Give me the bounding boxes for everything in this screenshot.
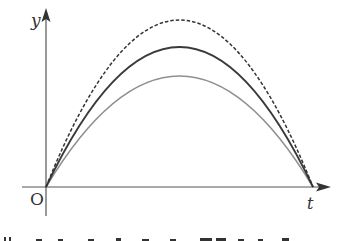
origin-label: O [30,189,44,209]
cut-off-caption [0,229,353,241]
dark-solid-curve [46,47,313,187]
y-axis-label: y [31,10,41,30]
parabola-diagram: y O t [0,0,353,241]
diagram-canvas [0,0,353,241]
t-axis-label: t [307,194,313,213]
caption-glyph-tops [0,229,353,241]
dashed-curve [46,20,313,187]
light-solid-curve [46,76,313,187]
